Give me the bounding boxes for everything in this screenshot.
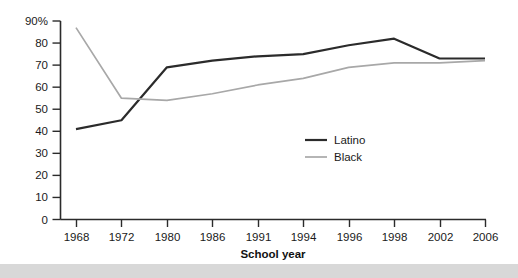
y-tick-label-30: 30 [35, 147, 48, 159]
x-tick-label-1986: 1986 [200, 231, 226, 243]
y-axis-tick-labels: 0102030405060708090% [25, 15, 48, 226]
x-tick-label-1991: 1991 [246, 231, 272, 243]
x-tick-label-1972: 1972 [109, 231, 135, 243]
y-tick-label-10: 10 [35, 191, 48, 203]
y-axis-ticks [53, 21, 61, 220]
series-line-black [76, 28, 485, 101]
x-axis-tick-labels: 1968197219801986199119941996199820022006 [64, 231, 499, 243]
legend-label-latino: Latino [334, 134, 365, 146]
y-tick-label-0: 0 [42, 214, 48, 226]
footer-band [0, 264, 518, 278]
chart-legend: LatinoBlack [305, 134, 365, 163]
x-tick-label-1980: 1980 [155, 231, 181, 243]
x-tick-label-1996: 1996 [337, 231, 363, 243]
y-tick-label-80: 80 [35, 37, 48, 49]
y-tick-label-40: 40 [35, 125, 48, 137]
y-tick-label-50: 50 [35, 103, 48, 115]
x-tick-label-2006: 2006 [473, 231, 499, 243]
data-series-group [76, 28, 485, 129]
x-axis-title: School year [240, 248, 306, 260]
legend-label-black: Black [334, 151, 362, 163]
x-tick-label-1968: 1968 [64, 231, 90, 243]
y-tick-label-90: 90% [25, 15, 48, 27]
x-tick-label-1998: 1998 [382, 231, 408, 243]
y-tick-label-70: 70 [35, 59, 48, 71]
y-tick-label-60: 60 [35, 81, 48, 93]
line-chart: 0102030405060708090% 1968197219801986199… [0, 0, 518, 278]
y-tick-label-20: 20 [35, 169, 48, 181]
x-axis-ticks [77, 220, 486, 228]
series-line-latino [76, 39, 485, 129]
chart-figure: 0102030405060708090% 1968197219801986199… [0, 0, 518, 278]
x-tick-label-2002: 2002 [428, 231, 454, 243]
x-tick-label-1994: 1994 [291, 231, 317, 243]
